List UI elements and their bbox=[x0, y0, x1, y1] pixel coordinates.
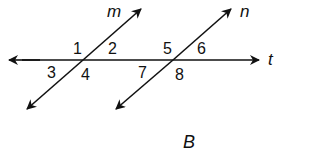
label-n: n bbox=[240, 3, 249, 20]
angle-3: 3 bbox=[47, 65, 56, 81]
angle-2: 2 bbox=[108, 41, 117, 57]
angle-4: 4 bbox=[81, 67, 90, 83]
angle-6: 6 bbox=[197, 41, 206, 57]
diagram-caption: B bbox=[183, 133, 195, 151]
angle-5: 5 bbox=[163, 41, 172, 57]
angle-8: 8 bbox=[175, 67, 184, 83]
angle-7: 7 bbox=[138, 65, 147, 81]
label-m: m bbox=[107, 3, 121, 20]
angle-1: 1 bbox=[73, 41, 82, 57]
label-t: t bbox=[268, 51, 273, 68]
